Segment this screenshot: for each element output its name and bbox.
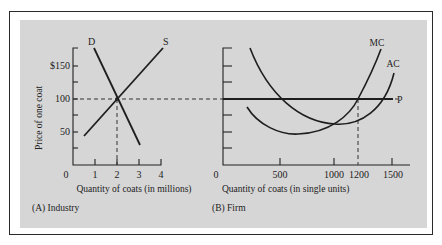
panel-b-firm: MC AC P 0 500 1000 1200 1500 Quantity of… xyxy=(212,38,410,214)
marginal-cost-curve xyxy=(247,49,381,134)
x-tick-label-0: 0 xyxy=(64,169,69,180)
equilibrium-point xyxy=(115,97,119,101)
b-x-tick-label-0: 0 xyxy=(214,169,219,180)
panel-a-ylabel: Price of one coat xyxy=(34,86,44,150)
mc-label: MC xyxy=(370,38,385,48)
x-tick-label-4: 4 xyxy=(159,169,164,180)
supply-curve xyxy=(84,48,163,136)
y-tick-label-100: 100 xyxy=(55,93,70,104)
demand-label: D xyxy=(88,36,95,47)
b-x-tick-label-1200: 1200 xyxy=(349,169,369,180)
b-x-tick-label-500: 500 xyxy=(273,169,288,180)
average-cost-curve xyxy=(250,48,394,124)
y-tick-label-50: 50 xyxy=(60,126,70,137)
y-tick-label-150: $150 xyxy=(50,60,70,71)
panel-b-axis-lines xyxy=(223,48,410,165)
panel-b-caption: (B) Firm xyxy=(212,203,246,214)
b-x-tick-label-1000: 1000 xyxy=(324,169,344,180)
price-label: P xyxy=(397,94,403,105)
b-x-tick-label-1500: 1500 xyxy=(383,169,403,180)
panel-a-caption: (A) Industry xyxy=(32,203,79,214)
economics-figure: D S $150 100 50 0 1 2 3 4 Quantity of co… xyxy=(0,0,442,245)
panel-b-xlabel: Quantity of coats (in single units) xyxy=(222,184,349,195)
ac-label: AC xyxy=(386,59,399,69)
x-tick-label-1: 1 xyxy=(93,169,98,180)
panel-b-axes xyxy=(223,48,410,165)
x-tick-label-3: 3 xyxy=(137,169,142,180)
supply-label: S xyxy=(163,36,169,47)
panel-a-xlabel: Quantity of coats (in millions) xyxy=(76,184,191,195)
x-tick-label-2: 2 xyxy=(115,169,120,180)
